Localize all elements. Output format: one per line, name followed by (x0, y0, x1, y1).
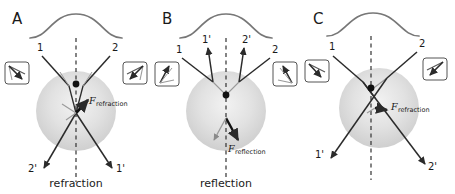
panel-b-graphic: 1 2 1' 2' F reflection (150, 0, 302, 194)
inset-right (273, 62, 297, 86)
inset-right (423, 58, 447, 80)
ray-label-2: 2 (419, 38, 425, 49)
ray-label-1: 1 (329, 41, 335, 52)
focus-dot (223, 92, 230, 99)
ray-label-2-prime: 2' (28, 163, 37, 174)
panel-a-graphic: 1 2 2' 1' F refraction (0, 0, 152, 194)
ray-label-2: 2 (272, 44, 278, 55)
beam-profile-curve (180, 14, 272, 38)
ray-2-incoming (239, 58, 270, 82)
inset-left (5, 62, 29, 84)
force-subscript: refraction (96, 100, 128, 108)
focus-dot (73, 81, 80, 88)
ray-2-incoming (387, 52, 417, 78)
ray-label-1: 1 (37, 42, 43, 53)
ray-label-2-prime: 2' (428, 161, 437, 172)
ray-label-1-prime: 1' (116, 163, 125, 174)
ray-1-incoming (182, 58, 213, 82)
panel-a: A (0, 0, 152, 194)
beam-profile-curve (327, 13, 419, 36)
optical-trap-figure: A (0, 0, 455, 194)
force-subscript: reflection (235, 148, 266, 156)
panel-c: C (301, 0, 453, 194)
force-symbol: F (390, 101, 398, 112)
ray-label-2-prime: 2' (242, 34, 251, 45)
inset-left (305, 60, 329, 82)
panel-a-caption: refraction (0, 177, 152, 190)
ray-label-2: 2 (112, 42, 118, 53)
panel-b: B (150, 0, 302, 194)
ray-label-1-prime: 1' (202, 34, 211, 45)
inset-left (155, 62, 179, 86)
panel-b-caption: reflection (150, 177, 302, 190)
ray-1-incoming (333, 56, 363, 82)
force-subscript: refraction (398, 106, 430, 114)
focus-dot (368, 85, 375, 92)
beam-profile-curve (30, 14, 122, 38)
ray-label-1-prime: 1' (315, 149, 324, 160)
ray-label-1: 1 (176, 44, 182, 55)
inset-right (123, 62, 147, 84)
panel-c-graphic: 1 2 1' 2' F refraction (301, 0, 453, 194)
force-symbol: F (227, 143, 235, 154)
force-symbol: F (88, 95, 96, 106)
